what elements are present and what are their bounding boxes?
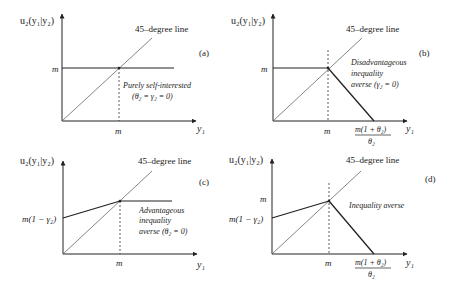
root-numerator: m(1 + θ₂) — [355, 258, 387, 267]
m-tick-y: m — [52, 64, 59, 74]
m-tick-x: m — [325, 258, 332, 268]
panel-tag: (a) — [199, 48, 209, 58]
x-axis-label: y₁ — [196, 123, 205, 134]
y-axis-label: u₂(y₁|y₂) — [229, 154, 263, 166]
note: inequality — [139, 216, 171, 225]
utility-rising — [272, 201, 329, 218]
y-axis-label: u₂(y₁|y₂) — [231, 15, 265, 27]
diagonal-45 — [62, 38, 152, 121]
diagonal-45 — [272, 171, 361, 254]
panel-b: u₂(y₁|y₂) 45–degree line (b) m m m(1 + θ… — [231, 14, 430, 146]
m-tick-y: m — [260, 194, 267, 204]
x-axis-label: y₁ — [405, 123, 414, 134]
utility-rising — [63, 201, 120, 218]
diag-label: 45–degree line — [346, 155, 399, 165]
note: Disadvantageous — [350, 58, 407, 67]
note: (θ₂ = γ₂ = 0) — [132, 92, 173, 101]
x-axis-label: y₁ — [405, 257, 414, 268]
root-denominator: θ₂ — [368, 137, 375, 146]
y-axis-label: u₂(y₁|y₂) — [20, 155, 54, 167]
diag-label: 45–degree line — [138, 156, 191, 166]
m-gamma-tick: m(1 − γ₂) — [229, 214, 263, 224]
note: averse (γ₂ = 0) — [351, 80, 399, 89]
note: Inequality averse — [348, 201, 405, 210]
m-gamma-tick: m(1 − γ₂) — [22, 214, 56, 224]
root-numerator: m(1 + θ₂) — [355, 125, 387, 134]
m-tick-x: m — [115, 126, 122, 136]
panel-tag: (d) — [425, 174, 436, 184]
note: averse (θ₂ = 0) — [139, 227, 188, 236]
m-tick-x: m — [116, 258, 123, 268]
note: Purely self-interested — [122, 81, 192, 90]
panel-a: u₂(y₁|y₂) 45–degree line (a) m m y₁ Pure… — [20, 14, 209, 136]
panel-tag: (b) — [419, 48, 430, 58]
x-axis-label: y₁ — [196, 259, 205, 270]
diagonal-45 — [273, 38, 362, 121]
note: inequality — [351, 69, 383, 78]
diag-label: 45–degree line — [346, 24, 399, 34]
m-tick-x: m — [324, 126, 331, 136]
panel-tag: (c) — [199, 177, 209, 187]
m-tick-y: m — [261, 64, 268, 74]
panel-d: u₂(y₁|y₂) 45–degree line (d) m m(1 − γ₂)… — [229, 154, 436, 279]
diag-label: 45–degree line — [135, 24, 188, 34]
note: Advantageous — [138, 206, 184, 215]
panel-c: u₂(y₁|y₂) 45–degree line (c) m(1 − γ₂) m… — [20, 155, 209, 270]
root-denominator: θ₂ — [368, 270, 375, 279]
y-axis-label: u₂(y₁|y₂) — [20, 15, 54, 27]
